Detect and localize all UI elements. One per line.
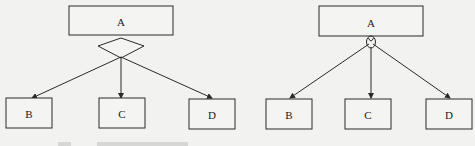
node-d-left: D [189, 99, 235, 129]
node-c-right: C [345, 99, 391, 129]
node-a-left: A [69, 6, 173, 35]
node-b-right: B [266, 99, 312, 129]
edge-a-b-left [32, 57, 121, 98]
node-d-left-label: D [208, 109, 216, 121]
edge-a-d-right [373, 44, 450, 98]
node-b-left-label: B [25, 108, 32, 120]
node-b-right-label: B [285, 109, 292, 121]
right-diagram: A B C D [266, 6, 472, 129]
node-d-right: D [426, 99, 472, 129]
node-a-left-label: A [117, 16, 125, 28]
node-a-right: A [319, 6, 423, 36]
diagram-canvas: A B C D A B [0, 0, 475, 146]
edge-a-b-right [290, 44, 369, 98]
node-c-right-label: C [364, 109, 371, 121]
node-d-right-label: D [445, 109, 453, 121]
node-c-left-label: C [118, 108, 125, 120]
caption-text [58, 142, 188, 146]
node-b-left: B [6, 98, 52, 128]
loop-connector-icon [367, 36, 376, 48]
figure-caption-cropped [58, 140, 188, 146]
edge-a-d-left [121, 57, 212, 98]
node-a-right-label: A [367, 17, 375, 29]
diamond-connector [98, 38, 144, 58]
left-diagram: A B C D [6, 6, 235, 129]
node-c-left: C [99, 98, 145, 128]
